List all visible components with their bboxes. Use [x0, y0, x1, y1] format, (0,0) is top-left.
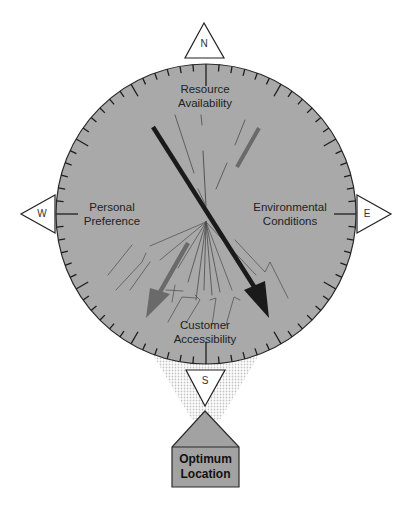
north-label: N [194, 38, 214, 49]
factor-resource-availability: Resource Availability [160, 82, 250, 110]
west-label: W [32, 208, 52, 219]
factor-customer-accessibility: Customer Accessibility [160, 318, 250, 346]
factor-environmental-conditions: Environmental Conditions [245, 200, 335, 228]
factor-line: Accessibility [160, 332, 250, 346]
factor-personal-preference: Personal Preference [72, 200, 152, 228]
factor-line: Preference [72, 214, 152, 228]
factor-line: Resource [160, 82, 250, 96]
factor-line: Availability [160, 96, 250, 110]
result-line: Location [172, 467, 239, 482]
factor-line: Personal [72, 200, 152, 214]
east-label: E [357, 208, 377, 219]
factor-line: Environmental [245, 200, 335, 214]
compass-diagram [0, 0, 410, 507]
factor-line: Customer [160, 318, 250, 332]
optimum-location-label: Optimum Location [172, 447, 239, 487]
south-label: S [195, 375, 215, 386]
result-line: Optimum [172, 452, 239, 467]
factor-line: Conditions [245, 214, 335, 228]
